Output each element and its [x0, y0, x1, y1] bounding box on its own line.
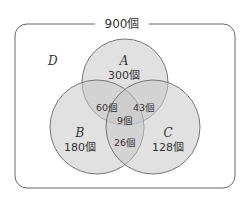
circle-c: [106, 80, 200, 174]
set-c-count: 128個: [152, 141, 184, 154]
total-label: 900個: [105, 17, 140, 31]
set-a-count: 300個: [108, 69, 140, 82]
ac-count: 43個: [133, 102, 155, 113]
abc-count: 9個: [117, 115, 133, 126]
venn-diagram: 900個 D A 300個 B 180個 C 128個 60個 43個 9個 2…: [0, 0, 247, 202]
universe-label: D: [47, 54, 58, 68]
set-b-name: B: [75, 126, 85, 140]
set-c-name: C: [163, 126, 172, 140]
set-a-name: A: [119, 54, 129, 68]
ab-count: 60個: [96, 102, 118, 113]
set-b-count: 180個: [64, 141, 96, 154]
bc-count: 26個: [114, 137, 136, 148]
